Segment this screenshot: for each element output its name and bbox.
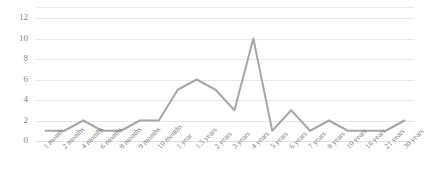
y-axis-tick-label: 12 <box>0 13 28 22</box>
x-axis-labels: 1 month2 months4 months6 months8 months9… <box>0 141 420 191</box>
series-line <box>36 10 414 141</box>
y-axis-tick-label: 10 <box>0 34 28 43</box>
y-axis-tick-label: 8 <box>0 54 28 63</box>
y-axis-tick-label: 2 <box>0 116 28 125</box>
y-axis-tick-label: 6 <box>0 75 28 84</box>
y-axis-tick-label: 4 <box>0 95 28 104</box>
plot-area <box>36 10 414 141</box>
